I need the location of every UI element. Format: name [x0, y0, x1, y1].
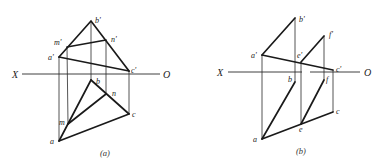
axis-label-o-a: O [163, 69, 170, 80]
label-c-a: c [132, 110, 136, 119]
front-edge-ab [262, 18, 295, 55]
caption-a: (a) [100, 148, 110, 158]
top-edge-ac [59, 114, 129, 141]
label-e-b: e [299, 125, 303, 134]
label-m-prime-a: m' [54, 38, 62, 47]
label-b-b: b [288, 75, 292, 84]
figure-b: X O b' a' e' f' c' b f c e a (b) [216, 15, 371, 156]
top-line-mn [68, 94, 106, 124]
label-a-prime-b: a' [251, 51, 257, 60]
caption-b: (b) [296, 146, 306, 156]
label-b-prime-a: b' [95, 16, 101, 25]
front-edge-ac [59, 57, 129, 71]
front-line-ef [301, 36, 324, 62]
label-f-b: f [326, 75, 330, 84]
label-m-a: m [59, 118, 65, 127]
label-b-prime-b: b' [299, 15, 305, 24]
projection-diagrams: X O b' m' n' a' c' b n c m a (a) X [0, 0, 385, 166]
label-n-prime-a: n' [111, 35, 117, 44]
label-c-b: c [336, 107, 340, 116]
label-e-prime-b: e' [297, 51, 303, 60]
top-edge-ab [262, 82, 295, 139]
label-c-prime-a: c' [131, 66, 137, 75]
axis-label-o-b: O [364, 67, 371, 78]
axis-label-x-b: X [216, 67, 224, 78]
label-c-prime-b: c' [336, 65, 342, 74]
label-b-a: b [96, 77, 100, 86]
axis-label-x-a: X [11, 69, 19, 80]
label-a-prime-a: a' [48, 53, 54, 62]
label-n-a: n [112, 89, 116, 98]
label-f-prime-b: f' [329, 30, 333, 39]
label-a-a: a [50, 137, 54, 146]
label-a-b: a [253, 135, 257, 144]
top-edge-ac [262, 112, 333, 139]
figure-a: X O b' m' n' a' c' b n c m a (a) [11, 16, 170, 158]
